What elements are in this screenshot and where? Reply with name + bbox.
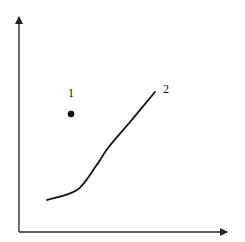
point-1-label: 1 [68,86,74,100]
curve-2-label: 2 [163,82,169,96]
diagram-canvas: 1 2 [0,0,245,242]
curve-2 [47,92,155,200]
point-1 [68,111,75,118]
